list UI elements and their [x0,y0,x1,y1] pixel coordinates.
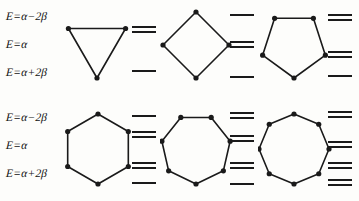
degenerate-energy-level [328,179,352,186]
figure-canvas: E=α−2β E=α E=α+2β E=α−2β E=α E=α+2β [0,0,359,201]
energy-level-bar [132,26,156,28]
energy-level-bar [132,136,156,138]
polygon-pentagon [258,0,334,100]
energy-level-bar [328,116,352,118]
vertex-dot [258,146,262,151]
level-stack-cycloheptatrienyl [226,101,262,201]
degenerate-energy-level [230,41,254,48]
degenerate-energy-level [230,162,254,169]
energy-level [230,76,254,78]
energy-level-bar [328,184,352,186]
vertex-dot [291,181,296,186]
diagram-row-top: E=α−2β E=α E=α+2β [0,0,359,100]
vertex-dot [160,42,165,47]
energy-level [230,14,254,16]
vertex-dot [65,164,70,169]
energy-level-bar [132,70,156,72]
vertex-dot [193,75,198,80]
vertex-dot [316,122,321,127]
vertex-dot [193,181,198,186]
vertex-dot [95,111,100,116]
degenerate-energy-level [230,135,254,142]
polygon-cell-cyclopropenyl [62,0,162,100]
energy-level-bar [230,76,254,78]
energy-level-bar [230,183,254,185]
level-stack-cyclobutadiene [226,0,262,100]
energy-level [132,182,156,184]
degenerate-energy-level [132,162,156,169]
energy-label-bonding: E=α+2β [6,167,48,179]
energy-level-bar [328,167,352,169]
polygon-cell-cycloheptatrienyl [160,101,260,201]
polygon-outline [263,18,326,78]
energy-level [132,115,156,117]
energy-level-bar [132,31,156,33]
polygon-cell-cyclooctatetraene [258,101,359,201]
energy-level [132,70,156,72]
energy-level-bar [230,14,254,16]
vertex-dot [267,171,272,176]
degenerate-energy-level [328,141,352,148]
polygon-heptagon [160,101,236,201]
energy-label-antibonding: E=α−2β [6,10,48,22]
energy-level-bar [328,14,352,16]
energy-level-bar [328,162,352,164]
degenerate-energy-level [132,26,156,33]
vertex-dot [66,26,71,31]
polygon-cell-cyclobutadiene [160,0,260,100]
vertex-dot [311,16,316,21]
level-stack-cyclooctatetraene [324,101,359,201]
energy-level-bar [132,162,156,164]
energy-level-bar [132,182,156,184]
energy-level-bar [132,167,156,169]
energy-level-bar [328,141,352,143]
polygon-triangle [62,0,138,100]
energy-level-bar [132,131,156,133]
energy-level-bar [328,75,352,77]
vertex-dot [95,181,100,186]
energy-level-bar [230,162,254,164]
polygon-cell-cyclopentadienyl [258,0,359,100]
vertex-dot [291,111,296,116]
energy-level-bar [328,111,352,113]
energy-level-bar [328,56,352,58]
energy-level-bar [328,179,352,181]
energy-level-bar [328,19,352,21]
energy-level-bar [230,41,254,43]
degenerate-energy-level [132,131,156,138]
energy-label-bonding: E=α+2β [6,66,48,78]
vertex-dot [166,168,171,173]
energy-level-bar [132,115,156,117]
polygon-square [160,0,236,100]
vertex-dot [65,129,70,134]
polygon-hexagon [62,101,138,201]
energy-level-bar [230,117,254,119]
energy-level-bar [328,146,352,148]
vertex-dot [316,171,321,176]
polygon-outline [68,29,125,79]
degenerate-energy-level [230,112,254,119]
vertex-dot [193,9,198,14]
polygon-outline [68,114,129,184]
energy-level [230,183,254,185]
energy-level-bar [328,51,352,53]
diagram-row-bottom: E=α−2β E=α E=α+2β [0,101,359,201]
vertex-dot [209,115,214,120]
vertex-dot [291,75,296,80]
vertex-dot [272,16,277,21]
energy-label-antibonding: E=α−2β [6,111,48,123]
degenerate-energy-level [328,51,352,58]
degenerate-energy-level [328,111,352,118]
vertex-dot [267,122,272,127]
energy-level-bar [230,140,254,142]
energy-level-bar [230,46,254,48]
polygon-octagon [258,101,334,201]
vertex-dot [260,53,265,58]
vertex-dot [94,75,99,80]
level-stack-cyclopentadienyl [324,0,359,100]
vertex-dot [178,115,183,120]
energy-level [328,75,352,77]
polygon-outline [162,117,230,184]
degenerate-energy-level [328,162,352,169]
energy-label-nonbonding: E=α [6,139,28,151]
